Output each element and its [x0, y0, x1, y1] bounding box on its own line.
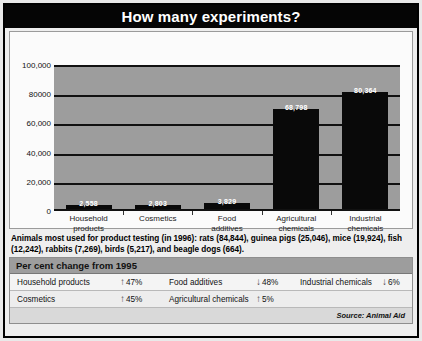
percent-change-number: 45% [126, 295, 142, 304]
x-axis-tick-label-line: products [54, 224, 123, 234]
bar-column [66, 63, 112, 209]
percent-change-category: Cosmetics [10, 295, 55, 304]
x-axis-tick-label: Agriculturalchemicals [262, 214, 331, 233]
bar-value-label: 3,829 [204, 198, 250, 205]
percent-change-category: Agricultural chemicals [162, 295, 249, 304]
bar-value-label: 80,364 [342, 87, 388, 94]
plot-area: 2,5582,8033,82968,79880,364 [54, 65, 400, 211]
arrow-down-icon: ↓ [382, 278, 387, 286]
percent-change-category: Food additives [162, 278, 222, 287]
bar-column [342, 63, 388, 209]
chart-note: Animals most used for product testing (i… [11, 233, 413, 255]
bar-value-label: 2,803 [135, 200, 181, 207]
arrow-up-icon: ↑ [120, 295, 125, 303]
x-axis-tick-label-line: Industrial [331, 214, 400, 224]
title-bar: How many experiments? [5, 5, 417, 28]
percent-change-table: Per cent change from 1995 Household prod… [9, 257, 413, 324]
percent-change-rows: Household products↑47%Food additives↓48%… [10, 274, 412, 308]
x-axis-tick-label-line: additives [192, 224, 261, 234]
percent-change-number: 47% [126, 278, 142, 287]
y-axis-tick-label: 60,000 [27, 119, 51, 128]
percent-change-value: ↑5% [256, 295, 274, 304]
percent-change-category: Household products [10, 278, 90, 287]
x-axis-tick-label-line: Food [192, 214, 261, 224]
percent-change-row: Cosmetics↑45%Agricultural chemicals↑5% [10, 291, 412, 308]
percent-change-value: ↑47% [120, 278, 142, 287]
source-label: Source: Animal Aid [336, 311, 405, 320]
x-axis-tick-label-line: Agricultural [262, 214, 331, 224]
figure-frame: How many experiments? 020,00040,00060,00… [3, 3, 419, 338]
percent-change-category: Industrial chemicals [293, 278, 372, 287]
chart-panel: 020,00040,00060,00080000100,000 2,5582,8… [9, 31, 413, 229]
x-axis-tick-label-line: Household [54, 214, 123, 224]
arrow-up-icon: ↑ [256, 295, 261, 303]
bar-column [135, 63, 181, 209]
bar-value-label: 2,558 [66, 200, 112, 207]
percent-change-header: Per cent change from 1995 [10, 258, 412, 274]
percent-change-header-label: Per cent change from 1995 [16, 260, 137, 271]
x-axis-tick-label-line: chemicals [331, 224, 400, 234]
y-axis-tick-label: 20,000 [27, 177, 51, 186]
bar-value-label: 68,798 [273, 104, 319, 111]
bar-column [204, 63, 250, 209]
arrow-up-icon: ↑ [120, 278, 125, 286]
y-axis-tick-label: 100,000 [22, 61, 51, 70]
page-title: How many experiments? [122, 8, 301, 25]
x-axis-tick-label: Foodadditives [192, 214, 261, 233]
arrow-down-icon: ↓ [256, 278, 261, 286]
y-axis: 020,00040,00060,00080000100,000 [10, 65, 51, 211]
y-axis-tick-label: 0 [47, 207, 51, 216]
source-bar: Source: Animal Aid [10, 308, 412, 323]
percent-change-value: ↓48% [256, 278, 278, 287]
percent-change-value: ↑45% [120, 295, 142, 304]
percent-change-row: Household products↑47%Food additives↓48%… [10, 274, 412, 291]
y-axis-tick-label: 40,000 [27, 148, 51, 157]
x-axis-tick-label: Cosmetics [123, 214, 192, 224]
y-axis-tick-label: 80000 [29, 90, 51, 99]
x-axis-tick-label: Industrialchemicals [331, 214, 400, 233]
percent-change-number: 6% [388, 278, 400, 287]
x-axis-tick-label-line: chemicals [262, 224, 331, 234]
percent-change-number: 5% [262, 295, 274, 304]
percent-change-value: ↓6% [382, 278, 400, 287]
bar-column [273, 63, 319, 209]
x-axis-tick-label: Householdproducts [54, 214, 123, 233]
chart-figure: How many experiments? 020,00040,00060,00… [0, 0, 422, 341]
percent-change-number: 48% [262, 278, 278, 287]
x-axis-tick-label-line: Cosmetics [123, 214, 192, 224]
bar [273, 109, 319, 209]
bar [342, 92, 388, 209]
